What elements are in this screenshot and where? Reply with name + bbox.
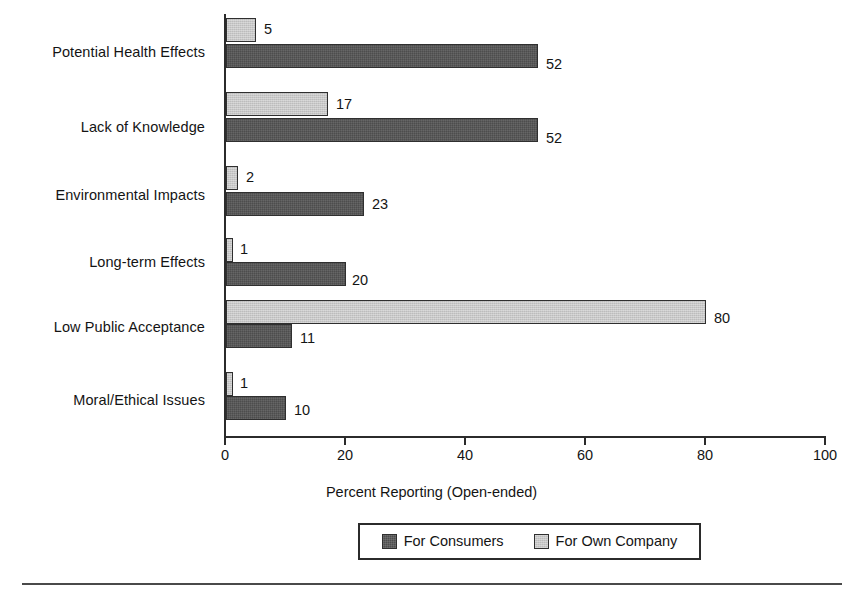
category-label-lack-of-knowledge: Lack of Knowledge (81, 119, 205, 135)
bar-value-own-company-lack-of-knowledge: 17 (336, 96, 352, 113)
bar-value-consumers-potential-health-effects: 52 (546, 56, 562, 73)
x-axis-title: Percent Reporting (Open-ended) (0, 484, 863, 500)
bar-chart: Potential Health Effects Lack of Knowled… (0, 0, 863, 598)
bar-consumers-long-term-effects (226, 262, 346, 286)
x-tick-80 (704, 438, 706, 445)
bar-value-consumers-lack-of-knowledge: 52 (546, 130, 562, 147)
bar-value-consumers-low-public-acceptance: 11 (300, 330, 315, 347)
bar-value-own-company-environmental-impacts: 2 (246, 169, 254, 186)
bar-value-consumers-environmental-impacts: 23 (372, 196, 388, 213)
bar-value-own-company-low-public-acceptance: 80 (714, 310, 730, 327)
footer-divider (22, 583, 842, 585)
bar-own-company-environmental-impacts (226, 166, 238, 190)
x-tick-label-20: 20 (337, 447, 353, 464)
bar-own-company-potential-health-effects (226, 18, 256, 42)
bar-consumers-lack-of-knowledge (226, 118, 538, 142)
bar-own-company-moral-ethical-issues (226, 372, 233, 396)
legend-swatch-for-consumers (382, 534, 397, 549)
legend-entry-for-own-company: For Own Company (534, 533, 678, 550)
category-label-moral-ethical-issues: Moral/Ethical Issues (73, 392, 205, 408)
x-tick-60 (584, 438, 586, 445)
bar-consumers-environmental-impacts (226, 192, 364, 216)
x-tick-0 (224, 438, 226, 445)
bar-value-own-company-potential-health-effects: 5 (264, 21, 272, 38)
bar-value-consumers-moral-ethical-issues: 10 (294, 402, 310, 419)
x-tick-label-60: 60 (577, 447, 593, 464)
bar-own-company-low-public-acceptance (226, 300, 706, 324)
legend-entry-for-consumers: For Consumers (382, 533, 504, 550)
x-tick-label-100: 100 (813, 447, 837, 464)
category-label-potential-health-effects: Potential Health Effects (52, 44, 205, 60)
bar-value-own-company-moral-ethical-issues: 1 (240, 375, 248, 392)
bar-value-consumers-long-term-effects: 20 (352, 272, 368, 289)
x-tick-20 (344, 438, 346, 445)
x-tick-label-80: 80 (697, 447, 713, 464)
x-tick-label-40: 40 (457, 447, 473, 464)
bar-value-own-company-long-term-effects: 1 (240, 241, 248, 258)
legend-swatch-for-own-company (534, 534, 549, 549)
x-tick-40 (464, 438, 466, 445)
category-label-environmental-impacts: Environmental Impacts (55, 187, 205, 203)
bar-consumers-moral-ethical-issues (226, 396, 286, 420)
category-label-long-term-effects: Long-term Effects (89, 254, 205, 270)
chart-legend: For Consumers For Own Company (358, 523, 701, 560)
bar-consumers-potential-health-effects (226, 44, 538, 68)
category-label-low-public-acceptance: Low Public Acceptance (54, 319, 205, 335)
legend-label-for-own-company: For Own Company (556, 533, 678, 550)
legend-label-for-consumers: For Consumers (404, 533, 504, 550)
bar-consumers-low-public-acceptance (226, 324, 292, 348)
bar-own-company-long-term-effects (226, 238, 233, 262)
bar-own-company-lack-of-knowledge (226, 92, 328, 116)
x-tick-100 (824, 438, 826, 445)
x-tick-label-0: 0 (221, 447, 229, 464)
x-axis-line (224, 436, 826, 438)
